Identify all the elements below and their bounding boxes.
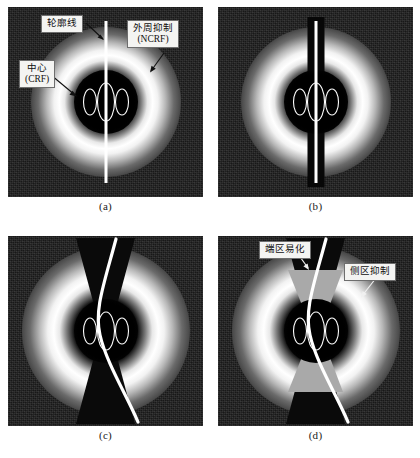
leader-center-crf [51, 75, 87, 111]
panel-cell-b: (b) [210, 0, 420, 229]
label-side-zone-inhibition-text: 侧区抑制 [350, 266, 390, 276]
contour-line-curved [8, 236, 203, 426]
label-side-zone-inhibition: 侧区抑制 [344, 263, 396, 281]
panel-caption-a: (a) [8, 200, 203, 212]
stimulus-panel-a: 轮廓线 外周抑制 (NCRF) 中心 (CRF) [8, 7, 203, 197]
panel-caption-c: (c) [8, 429, 203, 441]
stimulus-panel-c [8, 236, 203, 426]
stimulus-panel-b [218, 7, 413, 197]
figure-grid: 轮廓线 外周抑制 (NCRF) 中心 (CRF) (a) [0, 0, 420, 458]
panel-caption-d: (d) [218, 429, 413, 441]
leader-contour-line [86, 23, 116, 53]
label-center-crf-text: 中心 [27, 63, 47, 73]
panel-cell-a: 轮廓线 外周抑制 (NCRF) 中心 (CRF) (a) [0, 0, 210, 229]
gabor-element-group [284, 74, 348, 130]
label-end-zone-facilitation: 端区易化 [259, 241, 311, 259]
leader-surround-suppression [148, 53, 178, 83]
panel-caption-b: (b) [218, 200, 413, 212]
leader-side-zone-inhibition [358, 278, 388, 308]
label-surround-suppression-sub: (NCRF) [133, 34, 173, 45]
label-center-crf-sub: (CRF) [25, 74, 49, 85]
stimulus-panel-d: 端区易化 侧区抑制 [218, 236, 413, 426]
label-contour-line-text: 轮廓线 [47, 18, 77, 28]
label-end-zone-facilitation-text: 端区易化 [265, 244, 305, 254]
label-center-crf: 中心 (CRF) [19, 60, 55, 88]
label-surround-suppression-text: 外周抑制 [133, 23, 173, 33]
panel-cell-d: 端区易化 侧区抑制 (d) [210, 229, 420, 458]
label-surround-suppression: 外周抑制 (NCRF) [127, 20, 179, 48]
panel-cell-c: (c) [0, 229, 210, 458]
label-contour-line: 轮廓线 [41, 15, 83, 33]
